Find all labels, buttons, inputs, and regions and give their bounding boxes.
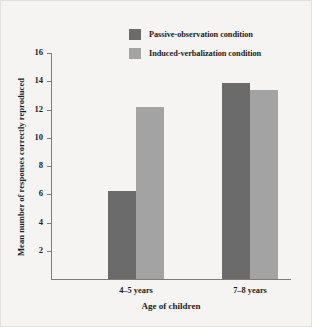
- y-tick-16: 16: [47, 53, 51, 54]
- y-tick-label-8: 8: [39, 160, 43, 170]
- y-tick-14: 14: [47, 81, 51, 82]
- y-tick-label-4: 4: [39, 217, 43, 227]
- y-tick-2: 2: [47, 251, 51, 252]
- bar-chart-figure: Passive-observation condition Induced-ve…: [0, 0, 312, 327]
- y-tick-10: 10: [47, 138, 51, 139]
- legend-swatch-passive-observation: [129, 29, 141, 40]
- y-axis-title-text: Mean number of responses correctly repro…: [16, 78, 26, 256]
- y-tick-label-6: 6: [39, 188, 43, 198]
- x-category-label-1: 4–5 years: [119, 286, 153, 295]
- legend-item-passive-observation: Passive-observation condition: [129, 26, 304, 43]
- y-tick-label-12: 12: [34, 104, 43, 114]
- y-tick-4: 4: [47, 223, 51, 224]
- y-tick-label-10: 10: [34, 132, 43, 142]
- y-tick-label-2: 2: [39, 245, 43, 255]
- x-category-label-2: 7–8 years: [233, 286, 267, 295]
- bar-passive-observation-group-2: [222, 83, 250, 279]
- y-tick-6: 6: [47, 194, 51, 195]
- y-tick-8: 8: [47, 166, 51, 167]
- y-axis-line: [51, 53, 52, 280]
- plot-area: 246810121416 4–5 years7–8 years Age of c…: [51, 53, 291, 280]
- y-axis-title: Mean number of responses correctly repro…: [15, 53, 27, 280]
- x-axis-line: [51, 279, 291, 280]
- bar-passive-observation-group-1: [108, 191, 136, 279]
- legend-label-passive-observation: Passive-observation condition: [149, 30, 253, 39]
- y-tick-label-16: 16: [34, 47, 43, 57]
- y-tick-label-14: 14: [34, 75, 43, 85]
- y-tick-12: 12: [47, 110, 51, 111]
- bar-induced-verbalization-group-1: [136, 107, 164, 279]
- bar-induced-verbalization-group-2: [250, 90, 278, 279]
- x-axis-title: Age of children: [51, 301, 291, 311]
